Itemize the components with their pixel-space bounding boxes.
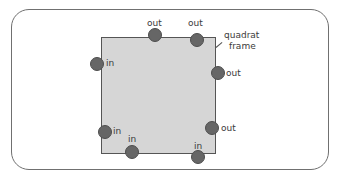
marker-dot [190,33,204,47]
quadrat-frame [101,37,216,154]
marker-dot [90,57,104,71]
marker-label: in [128,134,136,144]
marker-label: out [221,123,236,133]
marker-dot [191,150,205,164]
frame-label: quadrat frame [224,30,259,52]
marker-dot [148,28,162,42]
marker-dot [211,66,225,80]
marker-dot [98,125,112,139]
marker-label: in [194,141,202,151]
marker-dot [125,145,139,159]
marker-label: out [226,68,241,78]
frame-label-line-2: frame [224,41,259,52]
marker-dot [205,121,219,135]
marker-label: in [106,58,114,68]
marker-label: out [188,18,203,28]
frame-label-line-1: quadrat [224,30,259,41]
marker-label: out [147,18,162,28]
marker-label: in [113,126,121,136]
